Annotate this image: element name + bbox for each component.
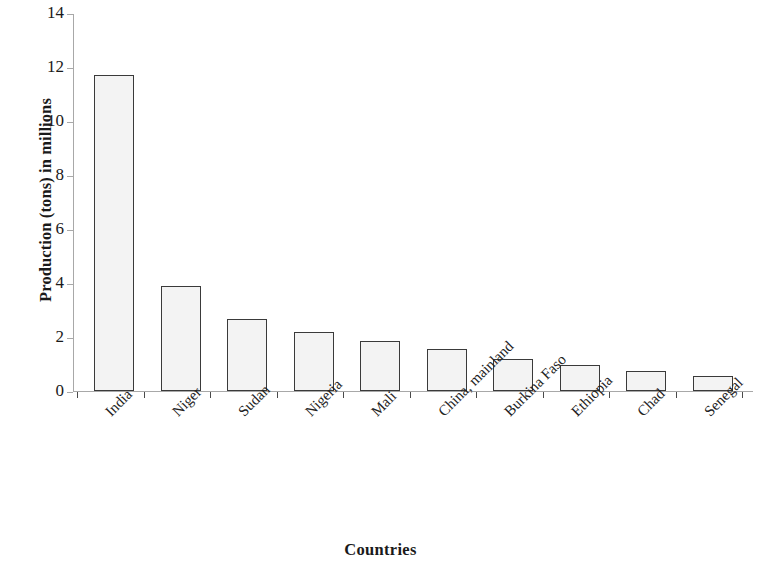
- bar: [360, 341, 400, 391]
- y-axis-tick-mark: [67, 68, 73, 69]
- y-axis-tick-label: 2: [56, 327, 65, 347]
- x-axis-tick-mark: [543, 392, 544, 398]
- y-axis-tick-mark: [67, 230, 73, 231]
- y-axis-line: [73, 14, 74, 392]
- y-axis-tick-mark: [67, 392, 73, 393]
- y-axis-tick-label: 6: [56, 219, 65, 239]
- x-axis-tick-mark: [410, 392, 411, 398]
- plot-area: 02468101214: [73, 14, 753, 392]
- x-axis-tick-mark: [609, 392, 610, 398]
- x-axis-tick-mark: [676, 392, 677, 398]
- x-axis-tick-mark: [343, 392, 344, 398]
- bar: [161, 286, 201, 391]
- x-axis-tick-mark: [277, 392, 278, 398]
- x-axis-category-label: Mali: [368, 388, 400, 420]
- y-axis-tick-mark: [67, 122, 73, 123]
- y-axis-tick-label: 10: [47, 111, 64, 131]
- y-axis-tick-label: 8: [56, 165, 65, 185]
- x-axis-category-labels: IndiaNigerSudanNigeriaMaliChina, mainlan…: [73, 400, 761, 535]
- x-axis-tick-mark: [476, 392, 477, 398]
- y-axis-tick-mark: [67, 284, 73, 285]
- y-axis-tick-label: 4: [56, 273, 65, 293]
- bar: [94, 75, 134, 391]
- y-axis-tick-mark: [67, 14, 73, 15]
- y-axis-tick-label: 14: [47, 3, 64, 23]
- x-axis-title: Countries: [0, 540, 761, 560]
- y-axis-tick-label: 12: [47, 57, 64, 77]
- y-axis-tick-mark: [67, 338, 73, 339]
- x-axis-tick-mark: [742, 392, 743, 398]
- y-axis-tick-mark: [67, 176, 73, 177]
- x-axis-tick-mark: [144, 392, 145, 398]
- x-axis-tick-mark: [210, 392, 211, 398]
- x-axis-tick-mark: [77, 392, 78, 398]
- bar-chart-figure: Production (tons) in millions 0246810121…: [0, 0, 761, 573]
- y-axis-tick-label: 0: [56, 381, 65, 401]
- y-axis-title: Production (tons) in millions: [36, 50, 56, 350]
